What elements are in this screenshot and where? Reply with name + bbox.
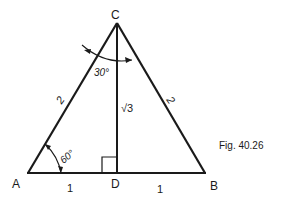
side-ac: [28, 23, 117, 173]
vertex-label-c: C: [111, 8, 120, 22]
side-label-ac: 2: [53, 94, 67, 107]
side-label-cd: √3: [121, 102, 133, 114]
figure-caption: Fig. 40.26: [219, 140, 264, 151]
vertex-label-a: A: [12, 177, 20, 191]
arc-c-arrow-left: [84, 49, 91, 54]
triangle-diagram: C A D B 2 2 √3 1 1 60° 30° Fig. 40.26: [0, 0, 283, 199]
vertex-label-d: D: [111, 177, 120, 191]
side-bc: [117, 23, 205, 173]
side-label-bc: 2: [164, 93, 178, 106]
right-angle-marker: [102, 157, 117, 173]
vertex-label-b: B: [210, 179, 218, 193]
side-label-ad: 1: [67, 182, 73, 194]
angle-label-a: 60°: [58, 147, 77, 165]
side-label-db: 1: [157, 183, 163, 195]
arc-c-arrow-right: [125, 57, 132, 63]
angle-label-c: 30°: [94, 67, 109, 78]
